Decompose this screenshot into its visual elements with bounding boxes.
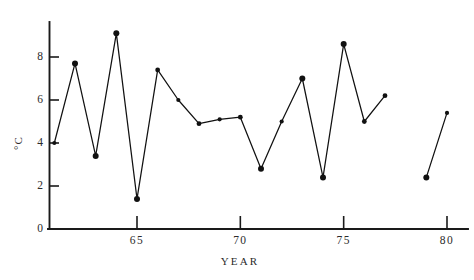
x-tick-label-70: 70 (233, 234, 247, 246)
data-point (218, 117, 222, 121)
data-point (258, 166, 264, 172)
data-point (320, 174, 326, 180)
chart-container: 02468 65707580 YEAR °C (0, 0, 474, 280)
data-point (197, 121, 202, 126)
data-point (423, 174, 429, 180)
data-point (134, 196, 140, 202)
x-tick-group: 65707580 (130, 216, 454, 246)
data-point (238, 115, 243, 120)
x-axis: 65707580 (48, 216, 468, 246)
data-point (383, 93, 388, 98)
y-tick-label-8: 8 (37, 50, 43, 62)
data-point (445, 111, 449, 115)
data-point (176, 98, 180, 102)
data-point (72, 60, 78, 66)
data-point-group (52, 30, 449, 202)
x-tick-label-65: 65 (130, 234, 144, 246)
x-tick-label-80: 80 (440, 234, 454, 246)
temperature-line-chart: 02468 65707580 YEAR °C (0, 0, 474, 280)
data-point (93, 153, 99, 159)
data-line-group (54, 33, 447, 199)
data-point (299, 76, 305, 82)
y-tick-label-2: 2 (37, 179, 43, 191)
data-point (341, 41, 347, 47)
data-point (113, 30, 119, 36)
data-point (155, 68, 160, 73)
x-axis-title: YEAR (221, 255, 259, 267)
data-point (280, 119, 284, 123)
data-line-segment-1 (54, 33, 385, 199)
y-axis-title: °C (12, 136, 24, 150)
data-point (52, 141, 56, 145)
x-tick-label-75: 75 (337, 234, 351, 246)
data-line-segment-2 (426, 113, 447, 177)
y-axis: 02468 (37, 22, 59, 234)
y-tick-label-6: 6 (37, 93, 43, 105)
y-tick-label-0: 0 (37, 222, 43, 234)
data-point (362, 119, 367, 124)
y-tick-label-4: 4 (37, 136, 43, 148)
